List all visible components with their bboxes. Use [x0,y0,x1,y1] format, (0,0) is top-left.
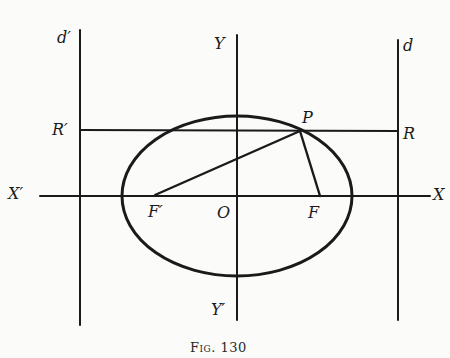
label-r-prime: R′ [52,122,68,138]
label-x-prime: X′ [8,186,23,202]
label-x: X [433,187,444,203]
label-o: O [217,205,230,221]
segment-p-f [300,131,320,196]
label-d-prime: d′ [57,30,71,46]
figure-caption: Fig. 130 [190,340,247,355]
label-p: P [302,110,313,126]
label-y: Y [214,36,225,52]
ellipse-figure: d′ Y d R′ P R X′ X F′ O F Y′ Fig. 130 [0,0,450,358]
label-f: F [308,205,319,221]
line-r-prime-r [80,130,398,131]
label-r: R [403,126,415,142]
segment-p-f-prime [155,131,300,195]
label-d: d [403,38,413,54]
label-y-prime: Y′ [211,302,225,318]
label-f-prime: F′ [148,204,163,220]
